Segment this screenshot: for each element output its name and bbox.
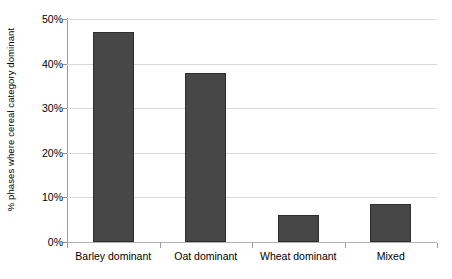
x-tick-label: Mixed [345,250,438,263]
gridline [67,19,437,20]
x-tick-label: Oat dominant [160,250,253,263]
x-axis-separator [345,243,346,248]
x-tick-label: Barley dominant [67,250,160,263]
x-axis-separator [160,243,161,248]
y-tick-label: 30% [29,103,63,113]
x-tick-label: Wheat dominant [252,250,345,263]
y-tick-label: 40% [29,59,63,69]
y-axis-tick-labels: 0%10%20%30%40%50% [26,19,63,242]
x-axis-separator [252,243,253,248]
bar [370,204,411,242]
bar-chart: % phases where cereal category dominant … [0,0,452,279]
x-axis-separator [437,243,438,248]
y-tick-label: 0% [29,237,63,247]
y-tick-label: 50% [29,14,63,24]
bar [278,215,319,242]
x-axis-separator [67,243,68,248]
plot-area [67,19,437,242]
y-tick-label: 10% [29,192,63,202]
y-tick-label: 20% [29,148,63,158]
bar [185,73,226,242]
y-axis-title: % phases where cereal category dominant [0,0,20,259]
bar [93,32,134,242]
x-axis-tick-labels: Barley dominantOat dominantWheat dominan… [67,250,437,270]
